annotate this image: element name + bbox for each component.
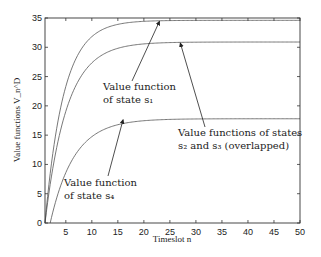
x-tick-label: 40 <box>243 227 253 237</box>
x-tick-label: 35 <box>217 227 227 237</box>
y-tick-label: 25 <box>32 72 42 82</box>
annotation-text: of state s₁ <box>103 94 153 105</box>
x-tick-label: 20 <box>139 227 149 237</box>
annotation-text: Value functions of states <box>177 127 302 138</box>
y-tick-label: 10 <box>32 159 42 169</box>
x-tick-label: 10 <box>87 227 97 237</box>
y-tick-label: 5 <box>37 189 42 199</box>
value-function-chart: 510152025303540455005101520253035 Value … <box>0 0 321 257</box>
x-tick-label: 30 <box>191 227 201 237</box>
y-tick-label: 30 <box>32 42 42 52</box>
annotation-arrow <box>108 120 123 176</box>
x-axis-label: Timeslot n <box>153 234 192 244</box>
x-tick-label: 50 <box>295 227 305 237</box>
y-tick-label: 35 <box>32 13 42 23</box>
annotation-text: of state s₄ <box>64 190 114 201</box>
y-axis-label: Value functions V_n^D <box>12 77 22 162</box>
annotation-text: Value function <box>102 81 176 92</box>
annotation-arrow <box>180 43 205 127</box>
annotation-arrow <box>132 21 159 81</box>
annotation-text: Value function <box>63 177 137 188</box>
x-tick-label: 5 <box>63 227 68 237</box>
y-tick-label: 15 <box>32 130 42 140</box>
x-tick-label: 15 <box>113 227 123 237</box>
annotation-text: s₂ and s₃ (overlapped) <box>178 140 289 151</box>
y-tick-label: 0 <box>37 218 42 228</box>
y-tick-label: 20 <box>32 101 42 111</box>
x-tick-label: 45 <box>269 227 279 237</box>
